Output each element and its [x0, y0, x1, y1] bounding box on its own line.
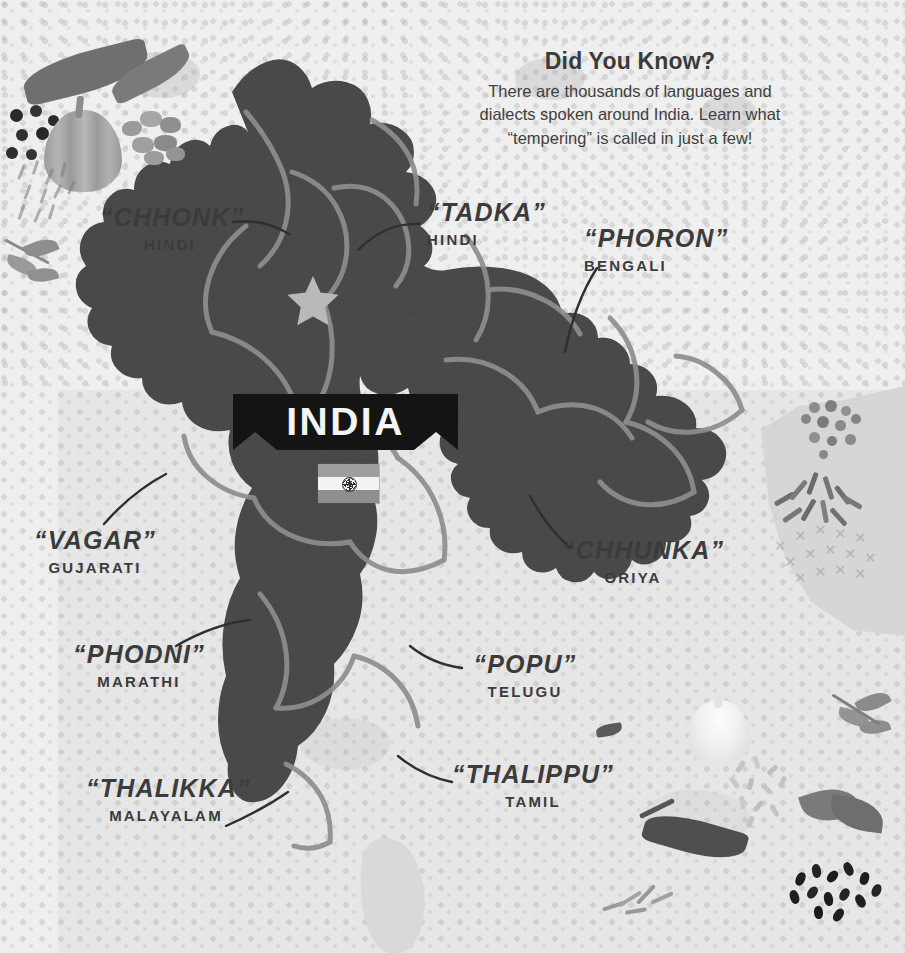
olive-leaf-sprig-left [0, 238, 70, 304]
callout-language: HINDI [100, 237, 240, 252]
infographic-poster: Did You Know? There are thousands of lan… [0, 0, 905, 953]
callout-term: “PHODNI” [72, 642, 206, 667]
callout-thalippu: “THALIPPU” TAMIL [452, 762, 614, 809]
callout-language: TELUGU [470, 684, 580, 699]
callout-popu: “POPU” TELUGU [470, 652, 580, 699]
headline-line-2: dialects spoken around India. Learn what [430, 103, 830, 126]
did-you-know-block: Did You Know? There are thousands of lan… [430, 48, 830, 150]
rice-grains [728, 756, 808, 832]
crosshatch-pattern-right: ✕ ✕ ✕ ✕ ✕ ✕ ✕ ✕ ✕ ✕ ✕ ✕ ✕ ✕ [772, 510, 898, 584]
callout-vagar: “VAGAR” GUJARATI [30, 528, 160, 575]
coriander-sprig-bottom [612, 876, 688, 916]
india-flag [318, 464, 379, 503]
callout-term: “THALIPPU” [452, 762, 614, 787]
bay-leaves [802, 782, 888, 844]
herb-sprig-bottom-right [820, 694, 898, 756]
callout-term: “CHHUNKA” [562, 538, 704, 563]
callout-chhunka: “CHHUNKA” ORIYA [562, 538, 704, 585]
ashoka-chakra-icon [342, 477, 357, 492]
callout-language: TAMIL [452, 794, 614, 809]
callout-language: MARATHI [72, 674, 206, 689]
country-name: INDIA [233, 394, 458, 450]
page-title: Did You Know? [430, 48, 830, 75]
callout-term: “THALIKKA” [86, 776, 246, 801]
flag-white-band [318, 477, 379, 490]
callout-term: “PHORON” [584, 226, 728, 251]
callout-phoron: “PHORON” BENGALI [584, 226, 728, 273]
callout-language: HINDI [427, 232, 546, 247]
callout-language: ORIYA [562, 570, 704, 585]
callout-language: BENGALI [584, 258, 728, 273]
callout-term: “POPU” [470, 652, 580, 677]
india-banner: INDIA [233, 394, 458, 450]
sri-lanka-landmass [361, 838, 425, 953]
callout-language: GUJARATI [30, 560, 160, 575]
headline-line-3: “tempering” is called in just a few! [430, 127, 830, 150]
callout-phodni: “PHODNI” MARATHI [72, 642, 206, 689]
flag-saffron-band [318, 464, 379, 477]
callout-language: MALAYALAM [86, 808, 246, 823]
callout-thalikka: “THALIKKA” MALAYALAM [86, 776, 246, 823]
headline-line-1: There are thousands of languages and [430, 80, 830, 103]
mustard-seeds-right [795, 400, 885, 464]
callout-term: “TADKA” [427, 200, 546, 225]
callout-tadka: “TADKA” HINDI [427, 200, 546, 247]
nigella-seeds [790, 862, 886, 922]
garlic-stem [714, 692, 722, 708]
callout-term: “VAGAR” [30, 528, 160, 553]
cardamom-pods [120, 105, 192, 169]
cumin-seeds-left [18, 158, 122, 228]
